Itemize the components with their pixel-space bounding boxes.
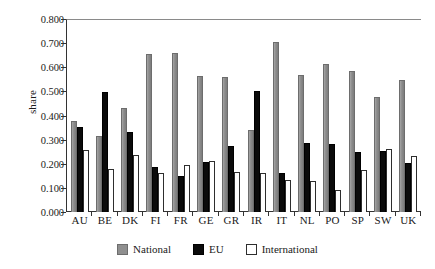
legend-label-national: National — [133, 243, 171, 255]
bar-international — [310, 181, 316, 212]
legend-label-eu: EU — [209, 243, 224, 255]
legend-label-international: International — [262, 243, 318, 255]
x-axis-label: FR — [168, 214, 193, 226]
bar-group — [67, 19, 92, 212]
x-axis-labels: AUBEDKFIFRGEGRIRITNLPOSPSWUK — [67, 214, 421, 226]
x-axis-label: IR — [244, 214, 269, 226]
bar-international — [234, 172, 240, 212]
bar-international — [184, 165, 190, 212]
bar-international — [411, 156, 417, 212]
legend-item-international: International — [246, 243, 318, 255]
bar-international — [260, 173, 266, 212]
bar-international — [158, 173, 164, 212]
x-axis-label: AU — [67, 214, 92, 226]
x-axis-label: DK — [118, 214, 143, 226]
legend-item-eu: EU — [193, 243, 224, 255]
bar-international — [83, 150, 89, 212]
bar-group — [118, 19, 143, 212]
bar-group — [345, 19, 370, 212]
bar-international — [133, 155, 139, 212]
x-axis-label: PO — [320, 214, 345, 226]
x-axis-label: GR — [219, 214, 244, 226]
x-axis-label: BE — [92, 214, 117, 226]
legend-swatch-national — [117, 244, 128, 255]
legend-swatch-international — [246, 244, 257, 255]
bar-group — [219, 19, 244, 212]
bar-group — [193, 19, 218, 212]
bar-group — [320, 19, 345, 212]
bar-group — [244, 19, 269, 212]
y-axis-title: share — [26, 72, 38, 132]
x-axis-label: SP — [345, 214, 370, 226]
chart-legend: NationalEUInternational — [0, 243, 435, 255]
bar-international — [335, 190, 341, 212]
bar-group — [168, 19, 193, 212]
legend-item-national: National — [117, 243, 171, 255]
bar-group — [396, 19, 421, 212]
legend-swatch-eu — [193, 244, 204, 255]
bar-international — [209, 161, 215, 212]
bar-international — [285, 180, 291, 212]
x-axis-label: GE — [193, 214, 218, 226]
bar-international — [386, 149, 392, 212]
bar-international — [361, 170, 367, 212]
x-axis-label: SW — [370, 214, 395, 226]
x-axis-label: FI — [143, 214, 168, 226]
x-axis-label: UK — [396, 214, 421, 226]
bar-group — [295, 19, 320, 212]
x-axis-label: NL — [295, 214, 320, 226]
bar-group — [269, 19, 294, 212]
bar-chart-figure: share 0.8000.7000.6000.5000.4000.3000.20… — [0, 0, 435, 269]
bar-international — [108, 169, 114, 212]
bar-groups — [67, 19, 421, 212]
y-axis-tick-mark — [61, 212, 66, 213]
bar-group — [92, 19, 117, 212]
bar-group — [370, 19, 395, 212]
x-axis-label: IT — [269, 214, 294, 226]
bar-group — [143, 19, 168, 212]
